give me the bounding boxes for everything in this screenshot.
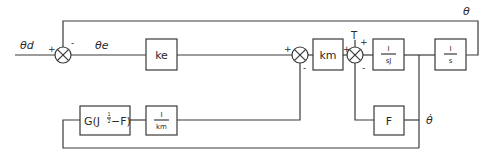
control-block-diagram: ke km I sJ I s F G(J 1 2 −F) I km θd θe … bbox=[0, 0, 489, 157]
sign-sum2-plus: + bbox=[284, 44, 292, 54]
sign-sum1-plus: + bbox=[48, 44, 56, 54]
summing-junction-2 bbox=[292, 47, 308, 63]
block-1-over-s-den: s bbox=[449, 57, 453, 65]
signal-theta-d-label: θd bbox=[20, 39, 35, 52]
block-1-over-km-den: km bbox=[156, 123, 167, 131]
block-F-label: F bbox=[386, 115, 392, 128]
summing-junction-1 bbox=[55, 47, 71, 63]
block-F: F bbox=[374, 106, 404, 135]
sign-sum2-minus: - bbox=[303, 63, 306, 73]
sign-sum3-minus: - bbox=[362, 63, 365, 73]
signal-torque-label: T bbox=[350, 30, 358, 41]
block-ke-label: ke bbox=[155, 49, 168, 62]
signal-theta-e-label: θe bbox=[95, 39, 109, 52]
block-1-over-s: I s bbox=[435, 39, 466, 70]
block-1-over-sJ: I sJ bbox=[373, 39, 404, 70]
block-1-over-km-num: I bbox=[160, 111, 162, 119]
block-ke: ke bbox=[146, 39, 177, 70]
block-km-label: km bbox=[319, 49, 336, 62]
block-G: G(J 1 2 −F) bbox=[80, 106, 131, 135]
block-G-label: G(J bbox=[84, 115, 100, 128]
block-G-suffix: −F) bbox=[111, 115, 131, 128]
signal-theta-label: θ bbox=[463, 5, 470, 18]
signal-theta-dot-label: θ̇ bbox=[426, 113, 433, 127]
block-1-over-km: I km bbox=[146, 106, 177, 135]
sign-sum3-plus-T: + bbox=[360, 37, 368, 47]
block-km: km bbox=[313, 39, 343, 70]
block-1-over-sJ-num: I bbox=[387, 45, 389, 53]
sign-sum1-minus: - bbox=[71, 38, 74, 48]
block-1-over-s-num: I bbox=[449, 45, 451, 53]
block-1-over-sJ-den: sJ bbox=[386, 57, 392, 65]
sign-sum3-plus-in: + bbox=[343, 44, 351, 54]
